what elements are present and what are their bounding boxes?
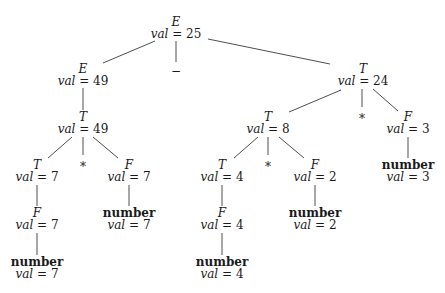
tree-node-f-n15: Fval = 7 <box>15 208 58 231</box>
node-value: val = 7 <box>15 172 58 184</box>
tree-node-t-n11: Tval = 4 <box>200 160 243 183</box>
tree-edge-n0-n1 <box>103 41 155 63</box>
node-value: val = 4 <box>200 220 243 232</box>
tree-edge-n4-n8 <box>48 137 72 158</box>
tree-node-t-n8: Tval = 7 <box>15 160 58 183</box>
tree-edge-n5-n11 <box>234 137 258 158</box>
tree-edge-n0-n3 <box>208 39 330 64</box>
node-value: val = 7 <box>107 172 150 184</box>
tree-node-f-n13: Fval = 2 <box>293 160 336 183</box>
token-multiply: * <box>359 112 365 126</box>
node-value: val = 4 <box>196 269 249 281</box>
tree-node-t-n4: Tval = 49 <box>58 112 109 135</box>
tree-edge-n3-n7 <box>373 89 398 111</box>
tree-node-t-n5: Tval = 8 <box>246 112 289 135</box>
token-multiply: * <box>265 160 271 174</box>
node-value: val = 2 <box>289 220 342 232</box>
node-value: val = 7 <box>15 220 58 232</box>
tree-node-t-n3: Tval = 24 <box>338 64 389 87</box>
node-value: val = 7 <box>11 269 64 281</box>
node-value: val = 25 <box>151 29 202 41</box>
node-value: val = 24 <box>338 76 389 88</box>
node-value: val = 8 <box>246 124 289 136</box>
tree-node-number-n14: numberval = 3 <box>382 160 435 183</box>
tree-node-e-n0: Eval = 25 <box>151 17 202 40</box>
tree-edge-n5-n13 <box>279 137 304 158</box>
tree-node-number-n19: numberval = 7 <box>11 257 64 280</box>
tree-node-e-n1: Eval = 49 <box>58 64 109 87</box>
node-value: val = 4 <box>200 172 243 184</box>
tree-node-f-n17: Fval = 4 <box>200 208 243 231</box>
tree-node-f-n10: Fval = 7 <box>107 160 150 183</box>
node-value: val = 3 <box>382 172 435 184</box>
tree-node-number-n20: numberval = 4 <box>196 257 249 280</box>
tree-node-f-n7: Fval = 3 <box>386 112 429 135</box>
node-value: val = 3 <box>386 124 429 136</box>
node-value: val = 49 <box>58 76 109 88</box>
node-value: val = 7 <box>103 220 156 232</box>
tree-edge-n4-n10 <box>93 137 118 158</box>
tree-edge-n3-n5 <box>289 90 341 112</box>
token-multiply: * <box>80 160 86 174</box>
tree-node-number-n16: numberval = 7 <box>103 208 156 231</box>
token-minus: − <box>171 64 181 78</box>
node-value: val = 2 <box>293 172 336 184</box>
node-value: val = 49 <box>58 124 109 136</box>
tree-node-number-n18: numberval = 2 <box>289 208 342 231</box>
parse-tree-edges <box>0 0 445 293</box>
